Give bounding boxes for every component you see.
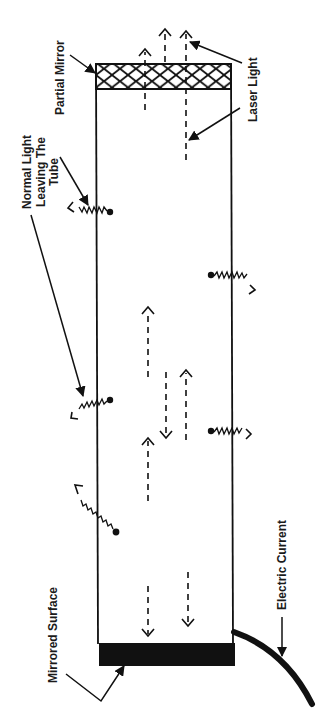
- internal-photons: [142, 307, 194, 636]
- normal-light-label: Normal Light Leaving The Tube: [20, 135, 61, 209]
- normal-light-pointer-upper: [60, 157, 88, 205]
- partial-mirror: [96, 64, 231, 89]
- laser-light-pointer-internal: [189, 108, 240, 140]
- tube-left-wall: [96, 64, 98, 644]
- partial-mirror-pointer: [70, 55, 95, 73]
- mirrored-surface-label: Mirrored Surface: [46, 587, 60, 683]
- electric-current-label: Electric Current: [275, 520, 289, 610]
- partial-mirror-label: Partial Mirror: [53, 40, 67, 115]
- laser-light-pointer-exit: [190, 42, 242, 63]
- emission-5: [208, 428, 251, 439]
- laser-beams: [139, 29, 192, 160]
- emission-2: [71, 397, 113, 419]
- laser-tube: [96, 64, 233, 644]
- normal-light-label-line2: Leaving The: [34, 137, 48, 207]
- emission-1: [68, 202, 113, 215]
- tube-right-wall: [231, 64, 233, 644]
- normal-light-label-line1: Normal Light: [20, 135, 34, 209]
- normal-light-pointer-lower: [31, 215, 83, 396]
- normal-light-label-line3: Tube: [47, 158, 61, 186]
- electric-cable: [234, 632, 312, 704]
- laser-light-label: Laser Light: [246, 57, 260, 122]
- mirrored-surface: [99, 643, 235, 666]
- laser-tube-diagram: Partial Mirror Laser Light Normal Light …: [0, 0, 326, 725]
- leader-arrows: [31, 42, 282, 701]
- mirrored-surface-pointer: [66, 666, 124, 701]
